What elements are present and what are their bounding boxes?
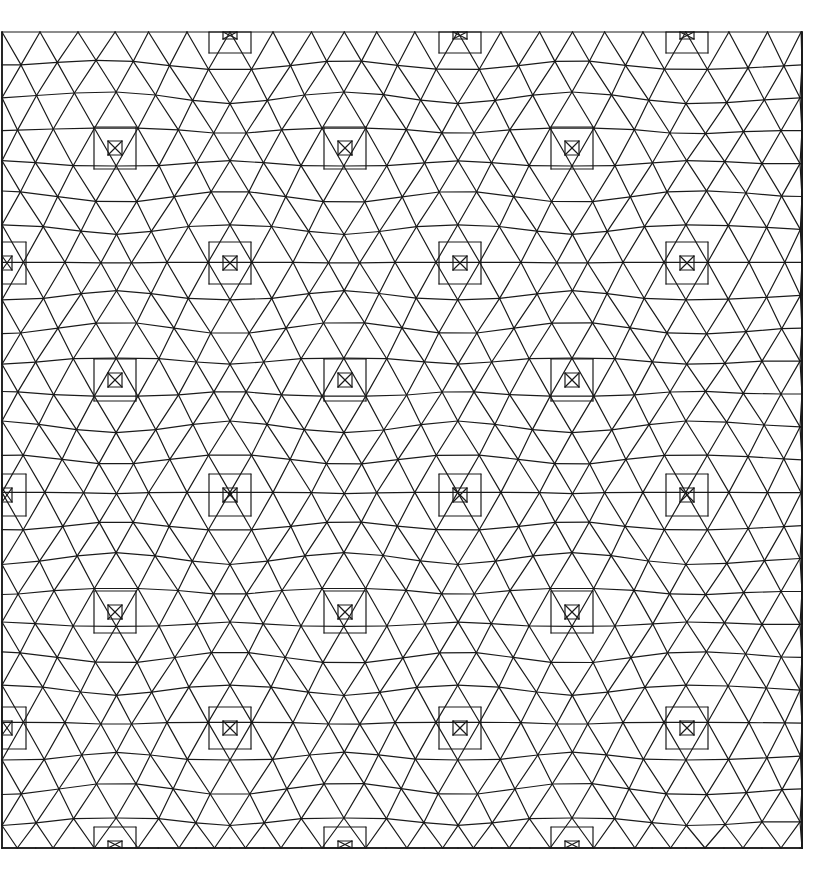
edge [230, 262, 252, 300]
edge [81, 662, 96, 692]
edge [344, 291, 379, 294]
edge [686, 685, 708, 722]
edge [167, 262, 188, 298]
edge [138, 128, 159, 165]
edge [729, 457, 748, 493]
edge [20, 192, 43, 227]
edge [291, 32, 312, 66]
edge [652, 362, 686, 364]
edge [540, 32, 555, 61]
edge [159, 163, 197, 166]
edge [670, 104, 686, 133]
edge [398, 460, 415, 493]
edge [159, 359, 179, 395]
edge [94, 553, 116, 589]
edge [133, 522, 169, 526]
edge [170, 32, 188, 66]
edge [58, 294, 81, 329]
edge [20, 653, 57, 658]
edge [687, 595, 706, 622]
edge [438, 760, 458, 794]
edge [137, 662, 152, 692]
edge [212, 653, 231, 686]
edge [784, 32, 801, 66]
edge [290, 459, 311, 492]
tiling-diagram [0, 0, 835, 885]
edge [615, 819, 652, 823]
edge [458, 565, 475, 595]
edge [272, 197, 286, 227]
edge [555, 61, 572, 92]
edge [116, 92, 155, 95]
edge [53, 129, 73, 166]
edge [18, 130, 36, 163]
edge [594, 589, 615, 627]
edge [606, 755, 629, 789]
edge [477, 192, 514, 197]
edge [189, 653, 212, 687]
edge [264, 163, 286, 197]
edge [670, 133, 687, 161]
edge [514, 328, 529, 359]
edge [706, 652, 745, 654]
edge [572, 234, 587, 262]
edge [765, 527, 785, 561]
edge [2, 192, 20, 225]
edge [727, 103, 744, 132]
edge [635, 362, 653, 395]
edge [252, 722, 273, 759]
edge [2, 622, 20, 653]
edge [116, 553, 155, 556]
edge [383, 526, 397, 555]
edge [474, 133, 491, 163]
edge [366, 819, 387, 848]
edge [458, 133, 474, 161]
edge [686, 652, 707, 685]
edge [784, 459, 802, 460]
edge [407, 395, 422, 425]
edge [21, 298, 44, 333]
edge [136, 784, 159, 819]
edge [167, 687, 189, 723]
edge [768, 493, 785, 527]
edge [263, 624, 285, 658]
edge [572, 752, 606, 755]
edge [458, 104, 474, 133]
edge [491, 624, 513, 658]
edge [533, 556, 550, 589]
edge [175, 653, 212, 658]
edge [156, 424, 193, 429]
edge [625, 492, 643, 526]
edge [766, 688, 800, 690]
edge [286, 166, 301, 197]
edge [116, 626, 137, 662]
edge [645, 192, 668, 227]
edge [664, 530, 686, 565]
edge [65, 262, 81, 293]
edge [379, 294, 402, 328]
edge [606, 755, 643, 759]
edge [2, 225, 23, 262]
edge [605, 493, 626, 527]
edge [304, 430, 344, 433]
edge [380, 692, 395, 722]
edge [138, 556, 155, 589]
edge [629, 759, 643, 789]
edge [495, 66, 518, 101]
edge [518, 430, 532, 460]
edge [309, 294, 324, 323]
edge [18, 561, 39, 594]
edge [54, 556, 77, 591]
edge [268, 561, 282, 590]
edge [588, 262, 623, 263]
edge [555, 522, 572, 552]
edge [593, 197, 631, 202]
edge [263, 624, 301, 626]
edge [281, 819, 301, 848]
edge [137, 323, 159, 359]
edge [344, 663, 365, 696]
edge [174, 192, 211, 197]
edge [645, 227, 665, 263]
edge [743, 822, 762, 848]
edge [230, 362, 264, 364]
